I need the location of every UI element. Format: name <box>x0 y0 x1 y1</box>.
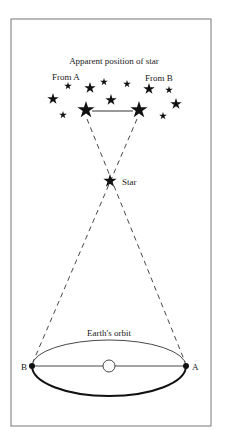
earth-position-b-dot <box>29 363 35 369</box>
background-star-icon <box>170 98 181 109</box>
point-b-label: B <box>21 362 27 372</box>
earths-orbit-label: Earth's orbit <box>87 328 131 338</box>
background-star-icon <box>47 93 58 104</box>
apparent-position-title: Apparent position of star <box>69 56 159 66</box>
background-star-icon <box>143 83 154 94</box>
apparent-star-from-a-icon <box>77 101 94 117</box>
from-a-label: From A <box>52 72 80 82</box>
sight-line-from-a <box>87 119 185 362</box>
background-star-icon <box>59 111 67 118</box>
background-star-icon <box>84 82 95 93</box>
near-star-icon <box>103 174 116 187</box>
background-star-icon <box>105 94 116 105</box>
apparent-star-from-b-icon <box>130 101 147 117</box>
background-star-icon <box>159 112 167 119</box>
parallax-diagram: Apparent position of star From A From B … <box>0 0 225 435</box>
sun-icon <box>103 360 115 372</box>
earth-position-a-dot <box>183 363 189 369</box>
background-star-icon <box>123 80 131 87</box>
from-b-label: From B <box>145 73 173 83</box>
background-star-icon <box>100 78 108 85</box>
background-star-icon <box>64 82 72 89</box>
star-label: Star <box>122 177 137 187</box>
background-star-icon <box>165 86 173 93</box>
background-stars <box>47 78 181 119</box>
sight-line-from-b <box>33 119 137 362</box>
point-a-label: A <box>192 362 199 372</box>
